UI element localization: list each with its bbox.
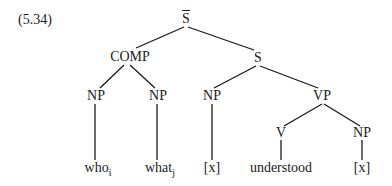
node-s-bar: S xyxy=(182,12,190,26)
node-v: V xyxy=(276,126,286,140)
branch-s-np xyxy=(214,66,256,88)
node-comp-np1: NP xyxy=(87,89,105,103)
leaf-x2: [x] xyxy=(354,161,370,175)
leaf-who-word: who xyxy=(85,160,109,175)
leaf-who-index: i xyxy=(109,167,112,178)
branch-vp-np xyxy=(324,104,360,126)
branch-s-vp xyxy=(260,66,318,88)
node-vp-np: NP xyxy=(353,126,371,140)
tree-branches xyxy=(0,0,392,186)
leaf-what-index: j xyxy=(172,167,175,178)
leaf-who: whoi xyxy=(85,161,112,180)
branch-sbar-s xyxy=(188,27,254,50)
node-comp-np2: NP xyxy=(149,89,167,103)
node-s-np: NP xyxy=(203,89,221,103)
branch-vp-v xyxy=(284,104,322,126)
node-s: S xyxy=(254,51,262,65)
node-comp: COMP xyxy=(110,50,150,64)
leaf-what: whatj xyxy=(145,161,175,180)
branch-comp-np1 xyxy=(100,65,124,88)
example-number: (5.34) xyxy=(18,12,52,28)
node-vp: VP xyxy=(313,89,331,103)
leaf-understood: understood xyxy=(250,161,312,175)
leaf-x1: [x] xyxy=(204,161,220,175)
branch-sbar-comp xyxy=(136,27,184,48)
leaf-what-word: what xyxy=(145,160,172,175)
branch-comp-np2 xyxy=(130,65,155,88)
